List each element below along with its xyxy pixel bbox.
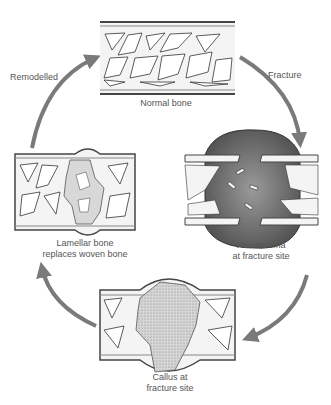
callus-illustration xyxy=(100,279,235,372)
label-lamellar: Lamellar bone replaces woven bone xyxy=(40,238,130,260)
label-lamellar-line2: replaces woven bone xyxy=(40,249,130,260)
lamellar-bone-illustration xyxy=(15,149,135,235)
label-haematoma-line1: Haematoma xyxy=(226,240,296,251)
label-normal-bone: Normal bone xyxy=(126,98,206,109)
arrow-to-lamellar xyxy=(42,268,96,326)
normal-bone-illustration xyxy=(100,22,235,94)
label-haematoma-line2: at fracture site xyxy=(226,251,296,262)
arrow-to-callus xyxy=(248,275,307,338)
haematoma-illustration xyxy=(185,130,318,248)
label-fracture-arrow: Fracture xyxy=(268,70,302,81)
label-lamellar-line1: Lamellar bone xyxy=(40,238,130,249)
label-haematoma: Haematoma at fracture site xyxy=(226,240,296,262)
label-callus: Callus at fracture site xyxy=(135,372,205,394)
label-callus-line2: fracture site xyxy=(135,383,205,394)
label-callus-line1: Callus at xyxy=(135,372,205,383)
fracture-healing-diagram xyxy=(0,0,331,405)
label-remodelled-arrow: Remodelled xyxy=(10,72,58,83)
